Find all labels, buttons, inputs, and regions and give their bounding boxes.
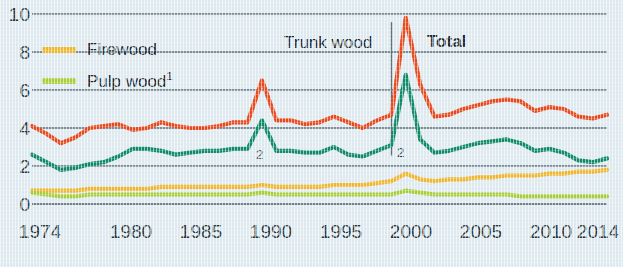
x-tick-2014: 2014 bbox=[573, 222, 623, 241]
y-tick-4: 4 bbox=[0, 119, 30, 138]
footnote-marker-1990: 2 bbox=[256, 147, 263, 162]
legend-label-pulp-wood: Pulp wood1 bbox=[87, 70, 173, 92]
footnote-marker-2000: 2 bbox=[397, 145, 404, 160]
y-tick-10: 10 bbox=[0, 5, 30, 24]
band-label-total: Total bbox=[427, 32, 466, 52]
y-tick-6: 6 bbox=[0, 81, 30, 100]
x-tick-2010: 2010 bbox=[521, 222, 581, 241]
x-tick-1985: 1985 bbox=[171, 222, 231, 241]
legend-swatch-firewood bbox=[42, 47, 76, 53]
chart-container: 10 8 6 4 2 0 1974 1980 1985 1990 1995 20… bbox=[0, 0, 623, 267]
y-tick-2: 2 bbox=[0, 157, 30, 176]
footnote-ref-1: 1 bbox=[166, 70, 172, 82]
x-tick-2000: 2000 bbox=[381, 222, 441, 241]
legend-swatch-pulp-wood bbox=[42, 78, 76, 84]
legend-item-firewood: Firewood bbox=[42, 40, 157, 60]
y-tick-8: 8 bbox=[0, 43, 30, 62]
x-tick-1980: 1980 bbox=[101, 222, 161, 241]
legend-item-pulp-wood: Pulp wood1 bbox=[42, 70, 173, 92]
x-tick-1995: 1995 bbox=[311, 222, 371, 241]
legend-label-firewood: Firewood bbox=[87, 40, 157, 60]
series-line-firewood bbox=[32, 170, 607, 191]
y-tick-0: 0 bbox=[0, 195, 30, 214]
band-label-trunk-wood: Trunk wood bbox=[284, 33, 372, 53]
x-tick-1974: 1974 bbox=[10, 222, 70, 241]
x-tick-2005: 2005 bbox=[451, 222, 511, 241]
x-tick-1990: 1990 bbox=[241, 222, 301, 241]
series-line-pulp-wood bbox=[32, 191, 607, 197]
